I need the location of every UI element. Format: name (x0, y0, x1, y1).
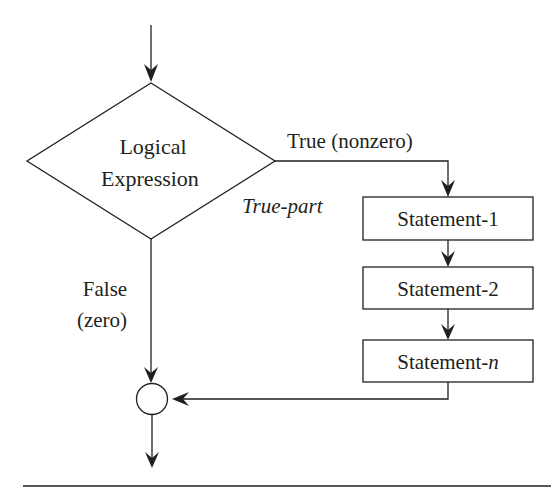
true-part-label: True-part (242, 194, 324, 218)
statement-1-prefix: Statement- (397, 207, 488, 231)
arrow-2-to-n (441, 309, 455, 340)
svg-text:Statement-2: Statement-2 (397, 277, 498, 301)
statement-2-suffix: 2 (488, 277, 499, 301)
statement-1-suffix: 1 (488, 207, 499, 231)
false-branch-connector (144, 239, 158, 383)
statement-n-prefix: Statement- (397, 350, 488, 374)
statement-box-n: Statement-n (363, 340, 533, 382)
decision-label-line1: Logical (119, 134, 186, 159)
exit-arrow (145, 415, 159, 468)
arrow-1-to-2 (441, 240, 455, 267)
true-branch-connector (275, 161, 455, 197)
true-branch-label: True (nonzero) (287, 129, 413, 153)
statement-box-1: Statement-1 (363, 197, 533, 240)
true-return-connector (172, 382, 448, 406)
decision-diamond: Logical Expression (27, 83, 275, 239)
decision-label-line2: Expression (101, 166, 199, 191)
entry-arrow (144, 25, 158, 82)
svg-text:Statement-n: Statement-n (397, 350, 498, 374)
statement-n-suffix: n (488, 350, 499, 374)
flowchart-canvas: Logical Expression True (nonzero) True-p… (0, 0, 553, 495)
false-label-line1: False (83, 277, 127, 301)
svg-text:Statement-1: Statement-1 (397, 207, 498, 231)
statement-2-prefix: Statement- (397, 277, 488, 301)
false-label-line2: (zero) (77, 308, 127, 332)
statement-box-2: Statement-2 (363, 267, 533, 309)
junction-connector-circle (137, 384, 168, 415)
